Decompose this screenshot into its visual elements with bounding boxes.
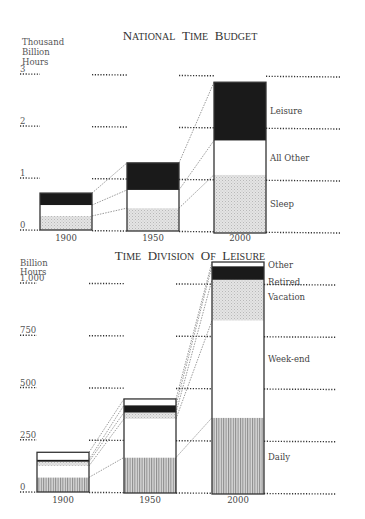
bar-segment-retired — [37, 460, 89, 462]
x-tick-label: 1950 — [142, 233, 164, 243]
connector-line — [176, 418, 212, 458]
bar-segment-other — [124, 399, 176, 405]
y-tick-label: 500 — [20, 378, 36, 388]
bar-segment-leisure — [127, 163, 179, 190]
bar-1950 — [124, 399, 176, 493]
bar-segment-leisure — [40, 193, 92, 205]
x-tick-label: 1900 — [55, 233, 77, 243]
y-tick-label: 0 — [20, 482, 25, 492]
y-axis-label-line: Thousand — [22, 37, 65, 47]
bar-segment-other — [37, 452, 89, 459]
legend-label-leisure: Leisure — [270, 106, 302, 116]
bar-1950 — [127, 163, 179, 231]
x-tick-label: 2000 — [227, 495, 249, 505]
time-budget-figure: NATIONAL TIME BUDGET TIME DIVISION OF LE… — [0, 0, 365, 519]
legend-label-other: Other — [268, 260, 294, 270]
legend-label-week-end: Week-end — [268, 354, 310, 364]
y-axis-label-line: Hours — [22, 57, 48, 67]
y-tick-label: 1 — [20, 168, 25, 178]
connector-line — [176, 262, 212, 399]
legend-label-sleep: Sleep — [270, 199, 295, 209]
bar-segment-daily — [212, 418, 264, 494]
bar-segment-retired — [124, 405, 176, 412]
connector-line — [176, 280, 212, 413]
bar-1900 — [40, 193, 92, 230]
bar-segment-daily — [124, 457, 176, 493]
connector-line — [179, 82, 214, 163]
bar-2000 — [212, 262, 264, 494]
legend-label-retired: Retired — [268, 277, 301, 287]
bar-1900 — [37, 452, 89, 492]
bar-segment-all-other — [127, 190, 179, 208]
x-tick-label: 1900 — [52, 495, 74, 505]
bar-segment-all-other — [214, 140, 266, 174]
gridline — [266, 180, 340, 181]
bar-segment-all-other — [40, 205, 92, 216]
connector-line — [89, 413, 124, 462]
chart-title-top: NATIONAL TIME BUDGET — [123, 28, 258, 43]
national-time-budget-chart: 0123190019502000SleepAll OtherLeisure — [20, 64, 340, 243]
connector-line — [92, 208, 127, 216]
bar-segment-retired — [212, 266, 264, 280]
bar-segment-vacation — [212, 280, 264, 321]
bar-segment-week-end — [124, 419, 176, 458]
y-tick-label: 250 — [20, 430, 36, 440]
y-tick-label: 750 — [20, 325, 36, 335]
chart-title-bottom: TIME DIVISION OF LEISURE — [115, 248, 265, 263]
bar-segment-daily — [37, 477, 89, 492]
connector-line — [89, 419, 124, 466]
bar-segment-vacation — [124, 413, 176, 419]
bar-2000 — [214, 82, 266, 233]
connector-line — [92, 163, 127, 193]
y-axis-label-top: Thousand Billion Hours — [22, 37, 65, 67]
gridline — [266, 128, 340, 129]
connector-line — [89, 457, 124, 477]
legend-label-vacation: Vacation — [267, 292, 306, 302]
gridline — [266, 232, 340, 233]
y-tick-label: 2 — [20, 116, 25, 126]
time-division-of-leisure-chart: 02505007501,000190019502000DailyWeek-end… — [20, 260, 336, 505]
x-tick-label: 1950 — [139, 495, 161, 505]
connector-line — [176, 321, 212, 419]
bar-segment-vacation — [37, 462, 89, 466]
y-tick-label: 0 — [20, 220, 25, 230]
connector-line — [92, 190, 127, 205]
bar-segment-sleep — [127, 208, 179, 231]
gridline — [266, 76, 340, 77]
y-axis-label-line: Billion — [22, 47, 50, 57]
bar-segment-sleep — [214, 175, 266, 233]
connector-line — [89, 405, 124, 459]
y-tick-label: 1,000 — [20, 273, 44, 283]
bar-segment-week-end — [212, 321, 264, 418]
bar-segment-sleep — [40, 216, 92, 230]
y-tick-label: 3 — [20, 64, 25, 74]
legend-label-daily: Daily — [268, 452, 290, 462]
x-tick-label: 2000 — [229, 233, 251, 243]
legend-label-all-other: All Other — [269, 153, 310, 163]
bar-segment-leisure — [214, 82, 266, 140]
bar-segment-week-end — [37, 466, 89, 477]
connector-line — [179, 140, 214, 189]
